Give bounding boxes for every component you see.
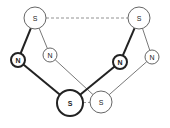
node-label: S: [33, 15, 38, 22]
node-s_bottom_thick: S: [57, 90, 83, 116]
edges-layer: [21, 18, 150, 103]
node-label: N: [47, 52, 52, 59]
node-label: N: [117, 59, 122, 66]
node-label: S: [68, 100, 73, 107]
node-label: S: [99, 99, 104, 106]
node-label: S: [137, 15, 142, 22]
nodes-layer: SSNNNNSS: [11, 7, 159, 116]
edge-s_top_left-n_left_thick: [21, 28, 31, 53]
node-label: N: [149, 54, 154, 61]
node-s_bottom_thin: S: [90, 91, 112, 113]
node-n_left_thin: N: [43, 48, 57, 62]
node-n_right_thin: N: [145, 50, 159, 64]
node-n_right_thick: N: [113, 55, 127, 69]
node-s_top_right: S: [128, 7, 150, 29]
node-s_top_left: S: [24, 7, 46, 29]
edge-n_left_thick-s_bottom_thick: [23, 65, 60, 95]
node-n_left_thick: N: [11, 53, 25, 67]
edge-s_top_right-n_right_thick: [123, 28, 135, 55]
node-label: N: [15, 57, 20, 64]
edge-s_top_left-n_left_thin: [39, 28, 47, 48]
edge-n_right_thick-s_bottom_thick: [80, 66, 115, 94]
network-diagram: SSNNNNSS: [0, 0, 170, 128]
edge-s_top_right-n_right_thin: [143, 28, 150, 50]
